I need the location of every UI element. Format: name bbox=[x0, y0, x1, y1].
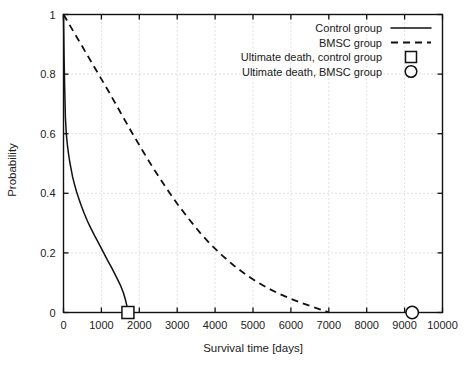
marker-circle-bmsc bbox=[406, 306, 418, 318]
x-tick-label: 5000 bbox=[241, 319, 265, 331]
legend-label: Ultimate death, BMSC group bbox=[242, 66, 382, 78]
x-tick-label: 2000 bbox=[127, 319, 151, 331]
y-tick-label: 0.6 bbox=[40, 128, 55, 140]
y-tick-label: 0.8 bbox=[40, 68, 55, 80]
legend-sample-open-circle bbox=[405, 66, 417, 78]
chart-canvas: 0100020003000400050006000700080009000100… bbox=[0, 0, 472, 370]
survival-probability-chart: 0100020003000400050006000700080009000100… bbox=[0, 0, 472, 370]
legend-label: Ultimate death, control group bbox=[241, 51, 382, 63]
y-tick-label: 0 bbox=[49, 307, 55, 319]
x-tick-label: 7000 bbox=[317, 319, 341, 331]
x-tick-label: 1000 bbox=[89, 319, 113, 331]
x-tick-label: 0 bbox=[60, 319, 66, 331]
x-axis-title: Survival time [days] bbox=[203, 342, 303, 354]
y-tick-label: 0.4 bbox=[40, 187, 55, 199]
legend-label: Control group bbox=[315, 22, 382, 34]
marker-square-control bbox=[122, 307, 134, 319]
legend-label: BMSC group bbox=[319, 37, 382, 49]
x-tick-label: 9000 bbox=[392, 319, 416, 331]
x-tick-label: 8000 bbox=[354, 319, 378, 331]
x-tick-label: 3000 bbox=[165, 319, 189, 331]
y-axis-title: Probability bbox=[6, 143, 18, 197]
chart-background bbox=[0, 0, 472, 370]
x-tick-label: 6000 bbox=[279, 319, 303, 331]
x-tick-label: 4000 bbox=[203, 319, 227, 331]
y-tick-label: 0.2 bbox=[40, 247, 55, 259]
x-tick-label: 10000 bbox=[427, 319, 458, 331]
y-tick-label: 1 bbox=[49, 9, 55, 21]
legend-sample-open-square bbox=[406, 52, 417, 63]
